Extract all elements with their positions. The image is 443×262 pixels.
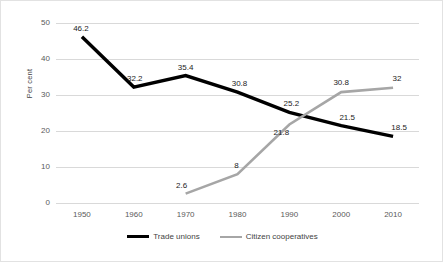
data-label: 30.8 — [225, 79, 255, 88]
y-axis-tick-40: 40 — [28, 54, 50, 63]
data-label: 46.2 — [66, 24, 96, 33]
x-axis-tick-2010: 2010 — [373, 210, 413, 219]
legend-label: Citizen cooperatives — [246, 232, 318, 241]
data-label: 2.6 — [167, 181, 197, 190]
y-axis-tick-30: 30 — [28, 90, 50, 99]
chart-legend: Trade unionsCitizen cooperatives — [1, 232, 443, 241]
data-label: 30.8 — [326, 78, 356, 87]
data-label: 8 — [222, 161, 252, 170]
x-axis-tick-2000: 2000 — [321, 210, 361, 219]
data-label: 32 — [382, 74, 412, 83]
line-chart: Per cent 0102030405019501960197019801990… — [0, 0, 443, 262]
data-label: 21.5 — [332, 113, 362, 122]
plot-area — [1, 1, 443, 262]
legend-item[interactable]: Citizen cooperatives — [220, 232, 318, 241]
data-label: 21.8 — [266, 128, 296, 137]
x-axis-tick-1980: 1980 — [218, 210, 258, 219]
data-label: 18.5 — [384, 123, 414, 132]
legend-item[interactable]: Trade unions — [127, 232, 199, 241]
data-label: 35.4 — [171, 63, 201, 72]
data-label: 32.2 — [120, 74, 150, 83]
data-label: 25.2 — [276, 99, 306, 108]
y-axis-tick-10: 10 — [28, 162, 50, 171]
x-axis-tick-1970: 1970 — [166, 210, 206, 219]
legend-swatch-icon — [220, 236, 242, 238]
x-axis-tick-1960: 1960 — [114, 210, 154, 219]
x-axis-tick-1990: 1990 — [269, 210, 309, 219]
y-axis-tick-20: 20 — [28, 126, 50, 135]
legend-label: Trade unions — [153, 232, 199, 241]
y-axis-tick-0: 0 — [28, 198, 50, 207]
x-axis-tick-1950: 1950 — [62, 210, 102, 219]
y-axis-tick-50: 50 — [28, 18, 50, 27]
legend-swatch-icon — [127, 235, 149, 238]
